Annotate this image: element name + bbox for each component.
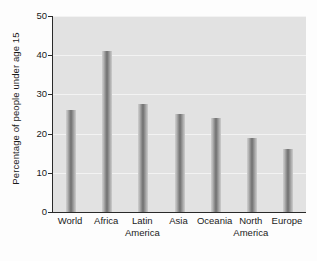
bar: [175, 114, 185, 212]
x-tick-label: World: [58, 215, 83, 226]
x-tick-label-line: Europe: [272, 215, 303, 226]
x-tick-label: Africa: [94, 215, 118, 226]
y-tick-label: 40: [7, 49, 47, 60]
x-tick-label-line: Latin: [132, 215, 153, 226]
gridline: [53, 55, 306, 56]
x-tick-label-line: Asia: [169, 215, 187, 226]
x-tick-label-line: Africa: [94, 215, 118, 226]
bar: [102, 51, 112, 212]
bar: [283, 149, 293, 212]
x-tick-label-line: World: [58, 215, 83, 226]
y-tick-label: 10: [7, 167, 47, 178]
x-tick-label: NorthAmerica: [233, 215, 268, 238]
plot-area: [52, 16, 306, 213]
y-tick-label: 50: [7, 10, 47, 21]
y-tick-label: 20: [7, 128, 47, 139]
bar: [247, 138, 257, 212]
x-tick-label-line: America: [233, 227, 268, 238]
gridline: [53, 94, 306, 95]
bar: [66, 110, 76, 212]
bar: [138, 104, 148, 212]
x-tick-label-line: North: [239, 215, 262, 226]
x-tick-label-line: America: [125, 227, 160, 238]
gridline: [53, 16, 306, 17]
x-tick-label: Europe: [272, 215, 303, 226]
x-tick-label: Oceania: [197, 215, 232, 226]
x-axis-labels: WorldAfricaLatinAmericaAsiaOceaniaNorthA…: [52, 215, 305, 261]
x-tick-label: Asia: [169, 215, 187, 226]
y-tick-label: 0: [7, 206, 47, 217]
bar: [211, 118, 221, 212]
x-tick-label-line: Oceania: [197, 215, 232, 226]
y-tick-label: 30: [7, 88, 47, 99]
y-axis-title: Percentage of people under age 15: [10, 9, 21, 209]
bar-chart: Percentage of people under age 15 010203…: [0, 0, 317, 261]
x-tick-label: LatinAmerica: [125, 215, 160, 238]
